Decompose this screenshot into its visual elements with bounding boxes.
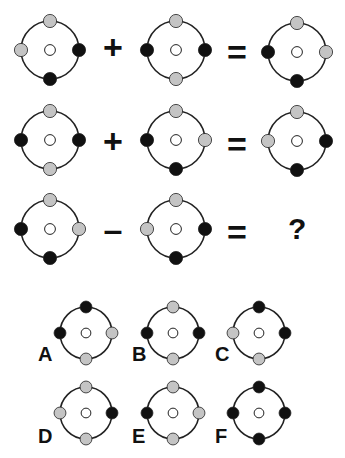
left-gray-dot — [261, 134, 274, 147]
option-a-label: A — [38, 343, 52, 366]
equation-1-left-figure — [20, 20, 80, 80]
right-black-dot — [193, 327, 205, 339]
bottom-black-dot — [169, 162, 182, 175]
right-black-dot — [279, 407, 291, 419]
option-f-figure[interactable] — [232, 386, 286, 440]
bottom-gray-dot — [80, 433, 92, 445]
top-gray-dot — [290, 16, 303, 29]
option-e-label: E — [132, 425, 145, 448]
right-gray-dot — [72, 222, 85, 235]
top-black-dot — [253, 301, 265, 313]
left-black-dot — [141, 407, 153, 419]
center-hole — [81, 328, 91, 338]
plus-operator: + — [98, 124, 128, 158]
bottom-gray-dot — [80, 353, 92, 365]
right-gray-dot — [193, 407, 205, 419]
equation-2-right-figure — [146, 110, 206, 170]
center-hole — [171, 45, 182, 56]
center-hole — [45, 45, 56, 56]
option-b-label: B — [132, 343, 146, 366]
right-black-dot — [72, 133, 85, 146]
bottom-gray-dot — [169, 72, 182, 85]
top-gray-dot — [43, 193, 56, 206]
right-black-dot — [279, 327, 291, 339]
center-hole — [292, 47, 303, 58]
equation-2-left-figure — [20, 110, 80, 170]
right-gray-dot — [106, 327, 118, 339]
left-gray-dot — [227, 327, 239, 339]
top-black-dot — [253, 381, 265, 393]
center-hole — [168, 408, 178, 418]
option-a-figure[interactable] — [59, 306, 113, 360]
top-gray-dot — [43, 14, 56, 27]
left-black-dot — [141, 327, 153, 339]
center-hole — [254, 408, 264, 418]
right-black-dot — [319, 134, 332, 147]
bottom-gray-dot — [253, 353, 265, 365]
center-hole — [171, 135, 182, 146]
right-black-dot — [72, 43, 85, 56]
top-gray-dot — [167, 381, 179, 393]
option-d-figure[interactable] — [59, 386, 113, 440]
bottom-black-dot — [290, 74, 303, 87]
center-hole — [292, 136, 303, 147]
equals-operator: = — [222, 215, 252, 249]
left-black-dot — [54, 327, 66, 339]
bottom-black-dot — [253, 433, 265, 445]
center-hole — [81, 408, 91, 418]
bottom-black-dot — [43, 72, 56, 85]
option-e-figure[interactable] — [146, 386, 200, 440]
right-black-dot — [106, 407, 118, 419]
top-gray-dot — [169, 193, 182, 206]
top-gray-dot — [290, 105, 303, 118]
equation-1-result-figure — [267, 22, 327, 82]
left-gray-dot — [54, 407, 66, 419]
option-d-label: D — [38, 425, 52, 448]
minus-operator: – — [98, 212, 128, 246]
top-gray-dot — [169, 14, 182, 27]
equation-1-right-figure — [146, 20, 206, 80]
right-gray-dot — [319, 45, 332, 58]
equals-operator: = — [222, 35, 252, 69]
option-c-figure[interactable] — [232, 306, 286, 360]
option-c-label: C — [215, 343, 229, 366]
plus-operator: + — [98, 30, 128, 64]
left-black-dot — [227, 407, 239, 419]
top-black-dot — [80, 301, 92, 313]
left-black-dot — [14, 133, 27, 146]
equation-3-left-figure — [20, 199, 80, 259]
top-gray-dot — [80, 381, 92, 393]
left-gray-dot — [14, 43, 27, 56]
bottom-gray-dot — [43, 162, 56, 175]
right-gray-dot — [198, 133, 211, 146]
center-hole — [45, 135, 56, 146]
left-black-dot — [140, 133, 153, 146]
center-hole — [254, 328, 264, 338]
unknown-result: ? — [288, 212, 306, 246]
right-black-dot — [198, 222, 211, 235]
equation-3-right-figure — [146, 199, 206, 259]
bottom-gray-dot — [167, 433, 179, 445]
left-black-dot — [14, 222, 27, 235]
left-gray-dot — [140, 222, 153, 235]
bottom-black-dot — [43, 251, 56, 264]
bottom-gray-dot — [167, 353, 179, 365]
top-gray-dot — [169, 104, 182, 117]
top-gray-dot — [43, 104, 56, 117]
center-hole — [168, 328, 178, 338]
center-hole — [171, 224, 182, 235]
center-hole — [45, 224, 56, 235]
right-black-dot — [198, 43, 211, 56]
equation-2-result-figure — [267, 111, 327, 171]
bottom-black-dot — [290, 163, 303, 176]
bottom-black-dot — [169, 251, 182, 264]
equals-operator: = — [222, 127, 252, 161]
top-gray-dot — [167, 301, 179, 313]
option-f-label: F — [215, 425, 227, 448]
option-b-figure[interactable] — [146, 306, 200, 360]
left-black-dot — [140, 43, 153, 56]
left-black-dot — [261, 45, 274, 58]
